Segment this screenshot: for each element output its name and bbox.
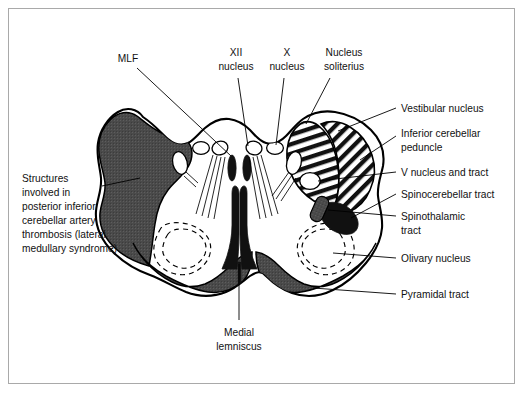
label-vestibular-nucleus: Vestibular nucleus	[401, 103, 484, 114]
label-pica-line6: medullary syndrome)	[22, 243, 117, 254]
label-nucleus-soliterius-line2: soliterius	[324, 61, 364, 72]
label-spinothalamic-tract-line2: tract	[401, 225, 421, 236]
mlf-left	[228, 155, 236, 181]
label-xii-nucleus-line2: nucleus	[218, 61, 253, 72]
label-pica-line3: posterior inferior	[22, 201, 96, 212]
leader-x-nucleus	[276, 78, 284, 145]
label-medial-lemniscus-line2: lemniscus	[216, 341, 261, 352]
label-pyramidal-tract: Pyramidal tract	[401, 289, 469, 300]
label-mlf: MLF	[118, 53, 138, 64]
label-pica-line1: Structures	[22, 173, 68, 184]
label-pica-line2: involved in	[22, 187, 70, 198]
label-xii-nucleus-line1: XII	[230, 47, 242, 58]
label-pica-line5: thrombosis (lateral	[22, 229, 106, 240]
mlf-right	[243, 155, 251, 181]
label-v-nucleus-and-tract: V nucleus and tract	[401, 167, 488, 178]
label-spinocerebellar-tract: Spinocerebellar tract	[401, 189, 495, 200]
label-inferior-cerebellar-peduncle-line1: Inferior cerebellar	[401, 128, 481, 139]
figure-canvas: MLF XII nucleus X nucleus Nucleus solite…	[0, 0, 525, 394]
medulla-cross-section-diagram: MLF XII nucleus X nucleus Nucleus solite…	[0, 0, 525, 394]
label-inferior-cerebellar-peduncle-line2: peduncle	[401, 142, 443, 153]
label-x-nucleus-line2: nucleus	[269, 61, 304, 72]
dorsal-nucleus-ellipse-1	[193, 142, 210, 155]
label-pica-line4: cerebellar artery	[22, 215, 97, 226]
v-tract-right	[300, 173, 320, 190]
label-x-nucleus-line1: X	[284, 47, 291, 58]
label-medial-lemniscus-line1: Medial	[224, 327, 254, 338]
x-nucleus-right	[267, 142, 284, 155]
label-olivary-nucleus: Olivary nucleus	[401, 253, 471, 264]
label-nucleus-soliterius-line1: Nucleus	[326, 47, 363, 58]
label-spinothalamic-tract-line1: Spinothalamic	[401, 211, 465, 222]
